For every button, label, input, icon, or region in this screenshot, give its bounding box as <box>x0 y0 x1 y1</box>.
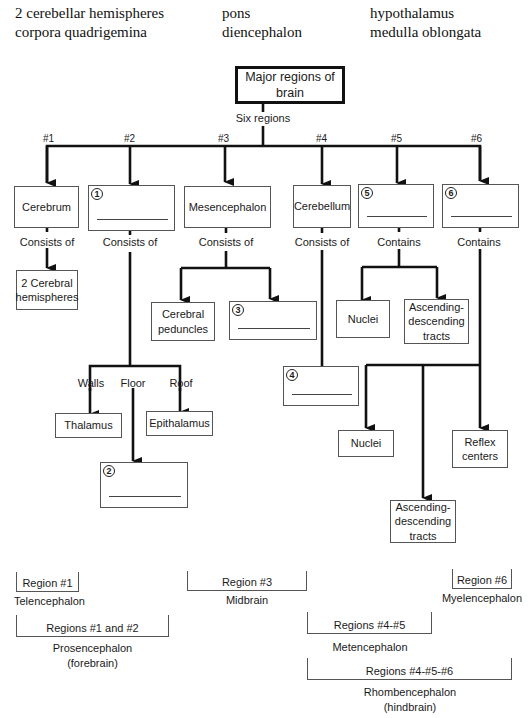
caption-telencephalon: Telencephalon <box>14 594 82 609</box>
caption-midbrain: Midbrain <box>187 593 307 608</box>
bracket-regions-1-2: Regions #1 and #2 <box>16 615 169 637</box>
region-box-cerebellum: Cerebellum <box>293 185 351 228</box>
box-thalamus: Thalamus <box>55 413 122 438</box>
branch-label-floor: Floor <box>118 377 148 389</box>
blank-number-badge: 4 <box>286 369 298 381</box>
relation-label: Consists of <box>12 236 82 248</box>
bracket-region-1: Region #1 <box>16 572 79 592</box>
blank-answer-5[interactable]: 5 <box>358 184 434 228</box>
region-number: #5 <box>391 133 402 144</box>
relation-label: Consists of <box>191 236 261 248</box>
blank-number-badge: 3 <box>232 304 244 316</box>
region-number: #1 <box>43 133 54 144</box>
region-box-mesencephalon: Mesencephalon <box>184 186 271 228</box>
blank-answer-4[interactable]: 4 <box>283 366 359 406</box>
box-cerebral-peduncles: Cerebral peduncles <box>151 302 215 341</box>
box-epithalamus: Epithalamus <box>146 411 213 436</box>
blank-answer-1[interactable]: 1 <box>88 185 175 231</box>
blank-answer-2[interactable]: 2 <box>100 462 188 508</box>
bracket-region-6: Region #6 <box>452 569 512 589</box>
connector-lines <box>0 0 532 718</box>
blank-number-badge: 2 <box>103 465 115 477</box>
region-number: #4 <box>316 133 327 144</box>
region-number: #3 <box>218 133 229 144</box>
region-number: #6 <box>471 133 482 144</box>
caption-metencephalon: Metencephalon <box>320 640 420 655</box>
box-tracts-6: Ascending-descending tracts <box>390 500 456 543</box>
blank-answer-6[interactable]: 6 <box>442 184 519 228</box>
relation-label: Consists of <box>287 236 357 248</box>
box-reflex-centers: Reflex centers <box>452 430 508 468</box>
edge-label: Six regions <box>222 112 304 124</box>
branch-label-roof: Roof <box>166 377 196 389</box>
blank-answer-3[interactable]: 3 <box>229 301 317 340</box>
relation-label: Contains <box>444 236 514 248</box>
relation-label: Contains <box>364 236 434 248</box>
blank-number-badge: 1 <box>91 188 103 200</box>
branch-label-walls: Walls <box>76 377 106 389</box>
bracket-regions-4-5: Regions #4-#5 <box>307 612 432 634</box>
blank-number-badge: 5 <box>361 187 373 199</box>
bracket-region-3: Region #3 <box>187 571 307 591</box>
box-nuclei-6: Nuclei <box>338 430 394 457</box>
bracket-regions-4-5-6: Regions #4-#5-#6 <box>307 658 512 680</box>
region-number: #2 <box>124 133 135 144</box>
relation-label: Consists of <box>95 236 165 248</box>
caption-prosencephalon: Prosencephalon (forebrain) <box>40 641 145 671</box>
box-cerebral-hemispheres: 2 Cerebral hemispheres <box>16 270 78 310</box>
caption-rhombencephalon: Rhombencephalon (hindbrain) <box>355 685 465 715</box>
region-box-cerebrum: Cerebrum <box>14 186 79 228</box>
blank-number-badge: 6 <box>445 187 457 199</box>
caption-myelencephalon: Myelencephalon <box>440 591 524 606</box>
root-box: Major regions of brain <box>235 66 345 104</box>
box-tracts-5: Ascending-descending tracts <box>404 299 469 344</box>
box-nuclei-5: Nuclei <box>336 300 390 338</box>
